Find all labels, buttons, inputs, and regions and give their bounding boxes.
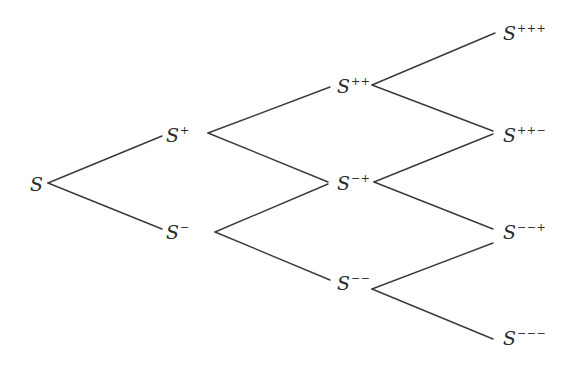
node-symbol: S: [166, 124, 179, 146]
node-n2dd: S−−: [337, 274, 370, 293]
node-symbol: S: [337, 75, 350, 97]
node-n3c: S−−+: [503, 223, 546, 242]
edge-n0-to-n1u: [48, 136, 162, 183]
edge-n2ud-to-n3c: [374, 182, 493, 229]
edge-n1u-to-n2uu: [208, 87, 330, 133]
node-n2uu: S++: [337, 77, 370, 96]
edge-n2dd-to-n3d: [372, 289, 493, 339]
edge-n2dd-to-n3c: [372, 243, 493, 289]
node-superscript: +++: [517, 22, 546, 35]
node-symbol: S: [337, 272, 350, 294]
node-superscript: −−: [351, 272, 370, 285]
node-superscript: −+: [351, 172, 370, 185]
edge-n0-to-n1d: [48, 183, 162, 229]
node-superscript: −−−: [517, 327, 546, 340]
edge-n1u-to-n2ud: [208, 133, 328, 182]
node-superscript: −−+: [517, 221, 546, 234]
node-superscript: ++: [351, 75, 370, 88]
node-superscript: −: [180, 221, 190, 234]
node-symbol: S: [503, 124, 516, 146]
node-symbol: S: [166, 221, 179, 243]
node-superscript: +: [180, 124, 190, 137]
node-symbol: S: [503, 22, 516, 44]
node-n1u: S+: [166, 126, 190, 145]
edge-n1d-to-n2ud: [215, 184, 328, 232]
node-n3d: S−−−: [503, 329, 546, 348]
node-symbol: S: [503, 327, 516, 349]
node-n0: S: [30, 175, 43, 194]
edge-n2uu-to-n3a: [372, 33, 495, 85]
node-n3a: S+++: [503, 24, 546, 43]
node-superscript: ++−: [517, 124, 546, 137]
tree-edges: [0, 0, 573, 368]
node-symbol: S: [503, 221, 516, 243]
node-symbol: S: [337, 172, 350, 194]
node-n2ud: S−+: [337, 174, 370, 193]
node-n3b: S++−: [503, 126, 546, 145]
node-symbol: S: [30, 173, 43, 195]
edge-n2uu-to-n3b: [372, 85, 493, 131]
node-n1d: S−: [166, 223, 190, 242]
edge-n1d-to-n2dd: [215, 232, 330, 280]
edge-n2ud-to-n3b: [374, 134, 493, 182]
